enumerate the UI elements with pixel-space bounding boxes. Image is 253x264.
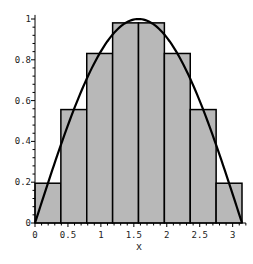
x-axis-label: x [136,241,142,252]
x-tick-label: 3 [230,230,235,240]
x-tick-label: 1 [98,230,103,240]
bar [87,53,113,223]
y-tick-label: 1 [26,14,31,24]
x-tick-label: 2 [164,230,169,240]
bar [35,183,61,223]
bars-group [35,23,242,223]
bar [190,110,216,223]
x-tick-label: 0.5 [60,230,76,240]
bar [113,23,139,223]
bar [216,183,242,223]
y-tick-label: 0.2 [15,177,31,187]
y-tick-label: 0 [26,218,31,228]
bar [61,110,87,223]
x-tick-label: 2.5 [192,230,208,240]
x-tick-label: 1.5 [126,230,142,240]
y-tick-label: 0.8 [15,55,31,65]
x-tick-label: 0 [32,230,37,240]
bar [139,23,165,223]
y-tick-label: 0.4 [15,136,31,146]
riemann-sum-chart: 00.511.522.5300.20.40.60.81 x [0,0,253,264]
y-tick-label: 0.6 [15,96,31,106]
bar [164,53,190,223]
